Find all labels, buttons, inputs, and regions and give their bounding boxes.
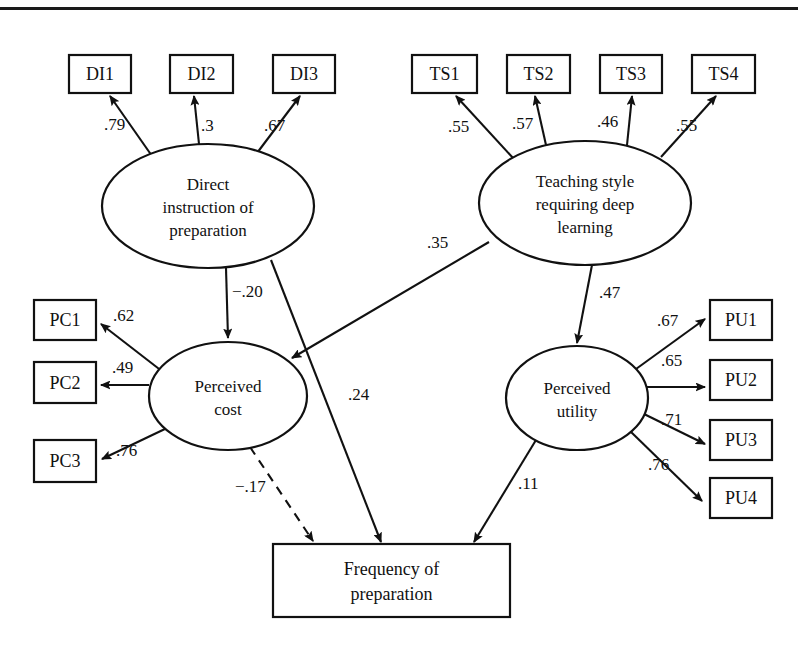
- outcome-variable-fp: Frequency ofpreparation: [273, 544, 510, 617]
- latent-label-line: Direct: [187, 175, 230, 194]
- latent-ellipse: [149, 342, 307, 450]
- latent-label-line: cost: [214, 400, 242, 419]
- path-ts-pc: [292, 242, 489, 358]
- coefficient-pc-pc2: .49: [112, 358, 133, 377]
- coefficient-di-di3: .67: [264, 116, 286, 135]
- observed-label: TS3: [616, 64, 646, 84]
- observed-variable-pu2: PU2: [710, 360, 772, 400]
- path-ts-ts2: [535, 96, 546, 145]
- outcome-box: [273, 544, 510, 617]
- latent-label-line: Perceived: [194, 377, 262, 396]
- observed-variable-ts1: TS1: [412, 55, 477, 93]
- observed-label: TS1: [429, 64, 459, 84]
- coefficient-ts-ts2: .57: [512, 114, 534, 133]
- coefficient-ts-pc: .35: [427, 233, 448, 252]
- latent-label-line: instruction of: [162, 198, 253, 217]
- observed-label: PC3: [49, 451, 80, 471]
- observed-label: DI2: [188, 64, 216, 84]
- coefficient-pu-fp: .11: [518, 474, 539, 493]
- coefficient-di-fp: .24: [348, 385, 370, 404]
- observed-variable-ts3: TS3: [600, 55, 662, 93]
- coefficient-di-di2: .3: [201, 116, 214, 135]
- observed-variable-di1: DI1: [69, 55, 131, 93]
- latent-label-line: requiring deep: [536, 195, 635, 214]
- observed-variable-ts2: TS2: [507, 55, 570, 93]
- observed-variable-di2: DI2: [170, 55, 233, 93]
- latent-variable-di: Directinstruction ofpreparation: [102, 144, 314, 268]
- outcome-label-line: Frequency of: [344, 559, 439, 579]
- coefficient-pc-pc1: .62: [113, 306, 134, 325]
- observed-label: DI1: [86, 64, 114, 84]
- coefficient-ts-ts4: .55: [676, 116, 697, 135]
- observed-label: TS2: [523, 64, 553, 84]
- coefficient-pu-pu3: .71: [661, 410, 682, 429]
- nodes-group: DI1DI2DI3TS1TS2TS3TS4PC1PC2PC3PU1PU2PU3P…: [34, 55, 772, 617]
- observed-variable-pc3: PC3: [34, 440, 96, 482]
- coefficient-pu-pu1: .67: [657, 311, 679, 330]
- coefficient-pu-pu2: .65: [661, 351, 682, 370]
- observed-label: PU3: [725, 430, 757, 450]
- observed-label: PC2: [49, 373, 80, 393]
- observed-variable-ts4: TS4: [692, 55, 755, 93]
- coefficient-pc-pc3: .76: [116, 441, 137, 460]
- path-di-di2: [194, 96, 199, 144]
- observed-label: DI3: [290, 64, 318, 84]
- latent-label-line: Perceived: [543, 379, 611, 398]
- latent-label-line: utility: [557, 402, 598, 421]
- latent-label-line: Teaching style: [536, 172, 634, 191]
- latent-variable-ts: Teaching stylerequiring deeplearning: [479, 141, 691, 265]
- latent-label-line: learning: [557, 218, 613, 237]
- outcome-label-line: preparation: [351, 584, 433, 604]
- observed-variable-di3: DI3: [273, 55, 335, 93]
- observed-label: PU1: [725, 310, 757, 330]
- observed-label: PU2: [725, 370, 757, 390]
- latent-variable-pu: Perceivedutility: [506, 346, 648, 450]
- latent-ellipse: [506, 346, 648, 450]
- latent-variable-pc: Perceivedcost: [149, 342, 307, 450]
- observed-label: PC1: [49, 310, 80, 330]
- coefficient-pc-fp: −.17: [235, 477, 266, 496]
- path-di-pc: [226, 268, 228, 338]
- observed-variable-pc2: PC2: [34, 362, 96, 403]
- sem-diagram-canvas: DI1DI2DI3TS1TS2TS3TS4PC1PC2PC3PU1PU2PU3P…: [0, 0, 798, 654]
- observed-variable-pc1: PC1: [34, 300, 96, 340]
- coefficient-ts-pu: .47: [599, 283, 621, 302]
- observed-label: PU4: [725, 488, 757, 508]
- observed-variable-pu3: PU3: [710, 420, 772, 460]
- observed-variable-pu1: PU1: [710, 300, 772, 340]
- coefficient-ts-ts3: .46: [597, 112, 618, 131]
- coefficient-pu-pu4: .76: [648, 455, 669, 474]
- coefficient-di-pc: −.20: [232, 282, 263, 301]
- coefficient-di-di1: .79: [104, 115, 125, 134]
- latent-label-line: preparation: [169, 221, 247, 240]
- observed-label: TS4: [708, 64, 738, 84]
- coefficient-ts-ts1: .55: [448, 117, 469, 136]
- path-ts-pu: [577, 265, 592, 343]
- observed-variable-pu4: PU4: [710, 478, 772, 518]
- path-ts-ts3: [627, 96, 632, 145]
